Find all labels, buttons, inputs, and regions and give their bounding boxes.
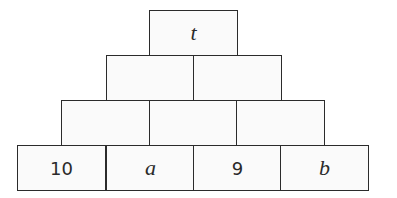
pyramid-cell-r3-c0: 10	[17, 145, 106, 191]
pyramid-cell-r2-c0	[61, 100, 150, 146]
pyramid-cell-r1-c0	[106, 55, 195, 101]
cell-value: 9	[232, 158, 243, 179]
pyramid-cell-r2-c2	[236, 100, 325, 146]
pyramid-cell-r3-c2: 9	[193, 145, 282, 191]
pyramid-cell-r1-c1	[193, 55, 282, 101]
pyramid-cell-top: t	[149, 10, 238, 56]
pyramid-cell-r3-c3: b	[280, 145, 369, 191]
pyramid-cell-r2-c1	[149, 100, 238, 146]
cell-value: a	[145, 155, 156, 181]
cell-value: b	[319, 155, 330, 181]
pyramid-cell-r3-c1: a	[106, 145, 195, 191]
cell-value: 10	[50, 158, 73, 179]
number-pyramid: t 10 a 9 b	[0, 0, 397, 198]
cell-value: t	[190, 20, 196, 46]
